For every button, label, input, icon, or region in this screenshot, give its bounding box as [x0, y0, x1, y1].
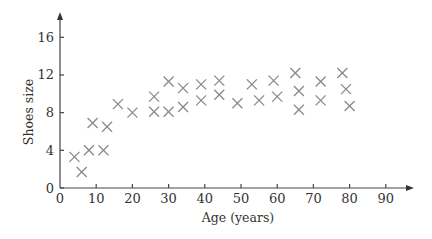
- data-point-x-marker-icon: [149, 107, 159, 117]
- data-point-x-marker-icon: [269, 76, 279, 86]
- data-point-x-marker-icon: [254, 95, 264, 105]
- y-tick-label: 4: [46, 143, 54, 158]
- x-tick-label: 50: [233, 191, 250, 206]
- data-point-x-marker-icon: [196, 95, 206, 105]
- y-tick-label: 8: [46, 105, 54, 120]
- y-tick-label: 12: [37, 67, 54, 82]
- data-point-x-marker-icon: [232, 98, 242, 108]
- x-tick: 40: [197, 184, 214, 206]
- data-point-x-marker-icon: [341, 84, 351, 94]
- data-point-x-marker-icon: [294, 105, 304, 115]
- y-tick-label: 0: [46, 181, 54, 196]
- data-point-x-marker-icon: [164, 107, 174, 117]
- data-point-x-marker-icon: [127, 108, 137, 118]
- x-tick-label: 60: [269, 191, 286, 206]
- x-tick: 30: [160, 184, 177, 206]
- scatter-chart: 0102030405060708090 0481216 Age (years) …: [0, 0, 432, 239]
- y-axis-arrow-icon: [57, 12, 63, 20]
- data-point-x-marker-icon: [178, 83, 188, 93]
- data-point-x-marker-icon: [196, 79, 206, 89]
- x-tick-label: 80: [341, 191, 358, 206]
- x-tick-label: 20: [124, 191, 141, 206]
- y-axis-label: Shoes size: [21, 79, 36, 145]
- data-point-x-marker-icon: [345, 101, 355, 111]
- x-tick: 70: [305, 184, 322, 206]
- x-tick: 0: [56, 191, 64, 206]
- x-axis-label: Age (years): [201, 210, 274, 225]
- y-tick-label: 16: [37, 30, 54, 45]
- x-tick: 10: [88, 184, 105, 206]
- x-tick-label: 30: [160, 191, 177, 206]
- x-tick: 20: [124, 184, 141, 206]
- data-point-x-marker-icon: [84, 145, 94, 155]
- data-point-x-marker-icon: [272, 92, 282, 102]
- x-tick: 50: [233, 184, 250, 206]
- data-point-x-marker-icon: [102, 122, 112, 132]
- data-point-x-marker-icon: [113, 99, 123, 109]
- data-points: [69, 68, 354, 177]
- data-point-x-marker-icon: [214, 76, 224, 86]
- x-ticks: 0102030405060708090: [56, 184, 394, 206]
- data-point-x-marker-icon: [337, 68, 347, 78]
- data-point-x-marker-icon: [290, 68, 300, 78]
- x-tick-label: 70: [305, 191, 322, 206]
- x-tick: 90: [378, 184, 395, 206]
- data-point-x-marker-icon: [88, 118, 98, 128]
- data-point-x-marker-icon: [69, 152, 79, 162]
- data-point-x-marker-icon: [214, 90, 224, 100]
- data-point-x-marker-icon: [316, 95, 326, 105]
- y-tick: 4: [46, 143, 64, 158]
- x-tick-label: 40: [197, 191, 214, 206]
- x-tick-label: 90: [378, 191, 395, 206]
- data-point-x-marker-icon: [294, 86, 304, 96]
- data-point-x-marker-icon: [316, 77, 326, 87]
- x-tick-label: 10: [88, 191, 105, 206]
- y-tick: 8: [46, 105, 64, 120]
- data-point-x-marker-icon: [77, 167, 87, 177]
- x-tick: 80: [341, 184, 358, 206]
- data-point-x-marker-icon: [98, 145, 108, 155]
- data-point-x-marker-icon: [149, 92, 159, 102]
- x-tick-label: 0: [56, 191, 64, 206]
- x-axis-arrow-icon: [406, 185, 414, 191]
- data-point-x-marker-icon: [247, 79, 257, 89]
- x-tick: 60: [269, 184, 286, 206]
- data-point-x-marker-icon: [164, 77, 174, 87]
- data-point-x-marker-icon: [178, 102, 188, 112]
